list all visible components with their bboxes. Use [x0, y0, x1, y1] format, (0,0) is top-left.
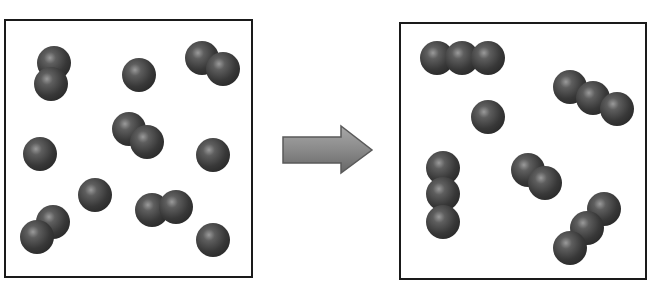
before-molecule-monatomic	[122, 58, 156, 92]
before-molecule-monatomic	[196, 223, 230, 257]
before-molecule-diatomic	[34, 46, 71, 101]
after-molecule-triatomic	[420, 41, 505, 75]
atom-icon	[206, 52, 240, 86]
atom-icon	[196, 138, 230, 172]
after-molecule-monatomic	[471, 100, 505, 134]
atom-icon	[20, 220, 54, 254]
after-molecule-diatomic	[511, 153, 562, 200]
atom-icon	[78, 178, 112, 212]
before-molecule-diatomic	[112, 112, 164, 159]
before-molecule-monatomic	[196, 138, 230, 172]
after-molecule-triatomic	[553, 192, 621, 265]
atom-icon	[130, 125, 164, 159]
after-molecule-triatomic	[426, 151, 460, 239]
atom-icon	[471, 100, 505, 134]
atom-icon	[196, 223, 230, 257]
diagram-canvas	[0, 0, 649, 290]
before-molecule-diatomic	[20, 205, 70, 254]
atom-icon	[553, 231, 587, 265]
atom-icon	[159, 190, 193, 224]
atom-icon	[600, 92, 634, 126]
atom-icon	[426, 205, 460, 239]
before-molecule-monatomic	[23, 137, 57, 171]
atom-icon	[23, 137, 57, 171]
before-molecule-diatomic	[185, 41, 240, 86]
before-molecule-monatomic	[78, 178, 112, 212]
before-molecule-diatomic	[135, 190, 193, 227]
atom-icon	[34, 67, 68, 101]
atom-icon	[528, 166, 562, 200]
after-molecule-triatomic	[553, 70, 634, 126]
atom-icon	[471, 41, 505, 75]
atom-icon	[122, 58, 156, 92]
reaction-arrow-icon	[283, 126, 372, 173]
